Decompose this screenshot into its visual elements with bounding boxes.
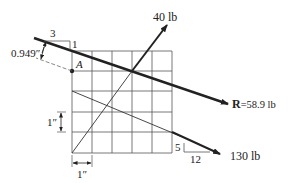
resultant-arrow xyxy=(34,38,228,104)
point-a-label: A xyxy=(75,58,83,70)
slope-rise-resultant: 1 xyxy=(72,38,78,50)
construction-line-130lb xyxy=(72,91,180,136)
force-130lb-label: 130 lb xyxy=(230,149,260,163)
slope-run-resultant: 3 xyxy=(50,27,56,39)
resultant-label: R=58.9 lb xyxy=(232,97,276,111)
force-40lb-label: 40 lb xyxy=(153,10,177,24)
force-diagram: 40 lb 130 lb 5 12 R=58.9 lb 3 1 A 0.949″… xyxy=(0,0,289,183)
resultant-value: =58.9 lb xyxy=(241,99,276,110)
distance-label: 0.949″ xyxy=(11,47,40,59)
distance-extension-line xyxy=(36,58,72,71)
slope-rise-130lb: 5 xyxy=(175,141,181,153)
grid xyxy=(72,51,172,153)
force-40lb-arrow xyxy=(132,25,167,71)
dim-x-label: 1″ xyxy=(77,168,87,180)
dim-y-label: 1″ xyxy=(47,116,57,128)
slope-run-130lb: 12 xyxy=(190,153,201,165)
resultant-symbol: R xyxy=(232,97,241,111)
distance-dimension-arrow-b xyxy=(41,47,44,59)
